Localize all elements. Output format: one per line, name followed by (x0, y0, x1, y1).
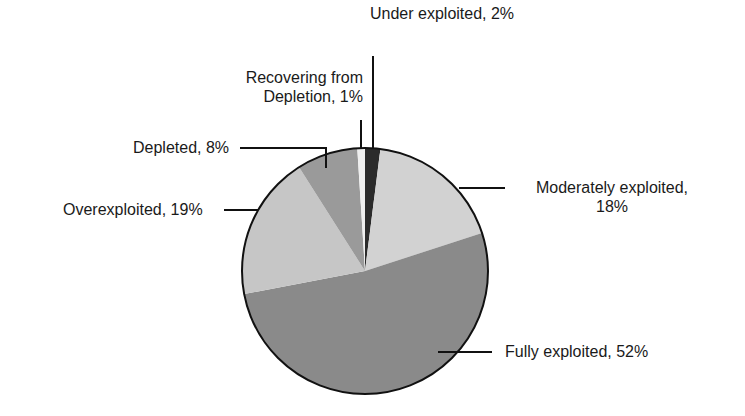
label-overexploited: Overexploited, 19% (63, 200, 203, 219)
label-recovering-line1: Recovering from (246, 68, 363, 87)
label-fully-exploited: Fully exploited, 52% (505, 342, 648, 361)
label-recovering-line2: Depletion, 1% (246, 87, 363, 106)
pie-slices (242, 148, 488, 394)
label-moderately-line2: 18% (512, 197, 712, 216)
label-under-exploited: Under exploited, 2% (370, 4, 514, 23)
label-moderately-line1: Moderately exploited, (512, 178, 712, 197)
label-moderately: Moderately exploited, 18% (512, 178, 712, 216)
label-depleted: Depleted, 8% (133, 138, 229, 157)
label-recovering: Recovering from Depletion, 1% (246, 68, 363, 106)
